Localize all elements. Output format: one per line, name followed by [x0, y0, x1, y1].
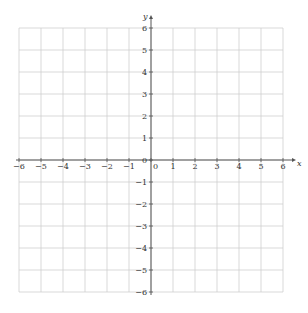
- x-tick-label: −3: [79, 162, 91, 171]
- x-tick-label: −5: [35, 162, 47, 171]
- y-tick-label: 3: [142, 90, 147, 99]
- x-tick-label: 3: [214, 162, 219, 171]
- x-tick-label: −6: [13, 162, 25, 171]
- y-tick-label: 6: [142, 24, 147, 33]
- y-tick-label: −3: [135, 222, 147, 231]
- y-tick-label: 1: [142, 134, 147, 143]
- y-tick-label: −2: [135, 200, 147, 209]
- x-tick-label: 5: [258, 162, 263, 171]
- x-tick-label: −2: [101, 162, 113, 171]
- x-tick-label: 2: [192, 162, 197, 171]
- x-tick-label: −4: [57, 162, 69, 171]
- y-tick-label: 4: [142, 68, 147, 77]
- y-axis-label: y: [142, 12, 148, 21]
- y-tick-label: 2: [142, 112, 147, 121]
- x-axis-label: x: [297, 159, 302, 168]
- x-tick-label: 1: [170, 162, 175, 171]
- x-tick-label: −1: [123, 162, 135, 171]
- coordinate-plane: −6−5−4−3−2−10123456 −6−5−4−3−2−10123456 …: [0, 0, 308, 313]
- axes: [16, 15, 296, 295]
- x-tick-label: 6: [280, 162, 285, 171]
- y-tick-label: 0: [142, 156, 147, 165]
- y-tick-label: −4: [135, 244, 147, 253]
- y-axis-arrow-icon: [149, 15, 153, 19]
- x-axis-arrow-icon: [292, 158, 296, 162]
- x-tick-label: 0: [153, 162, 158, 171]
- y-tick-label: 5: [142, 46, 147, 55]
- y-tick-label: −5: [135, 266, 147, 275]
- y-tick-label: −6: [135, 288, 147, 297]
- x-tick-label: 4: [236, 162, 241, 171]
- y-tick-label: −1: [135, 178, 147, 187]
